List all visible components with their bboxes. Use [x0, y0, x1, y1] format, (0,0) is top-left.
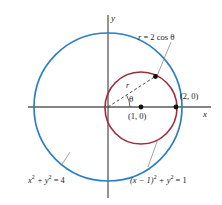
outer-eq-mid: + y	[35, 175, 49, 185]
intersection-point-label: (2, 0)	[180, 92, 198, 101]
radius-symbol-label: r	[126, 82, 129, 90]
angle-symbol-label: θ	[129, 95, 133, 104]
y-axis-label: y	[111, 14, 115, 23]
inner-eq-mid: + y	[157, 175, 171, 185]
polar-equation-mid: = 2 cos	[141, 32, 170, 42]
center-point-dot	[139, 105, 144, 110]
outer-circle-equation-label: x2 + y2 = 4	[28, 176, 65, 185]
polar-equation-theta: θ	[170, 32, 174, 42]
polar-equation-label: r = 2 cos θ	[138, 33, 175, 42]
inner-circle-equation-label: (x − 1)2 + y2 = 1	[130, 176, 187, 185]
intersection-point-dot	[174, 105, 179, 110]
ray-point-dot	[153, 74, 158, 79]
polar-label-leader	[157, 42, 171, 76]
polar-circle-diagram: y x r = 2 cos θ r θ (1, 0) (2, 0) x2 + y…	[0, 0, 222, 205]
x-axis-label: x	[203, 110, 207, 119]
outer-equation-leader	[61, 152, 70, 166]
outer-eq-tail: = 4	[52, 175, 65, 185]
center-point-label: (1, 0)	[128, 112, 146, 121]
inner-eq-tail: = 1	[173, 175, 186, 185]
inner-eq-lead: (x − 1)	[130, 175, 154, 185]
